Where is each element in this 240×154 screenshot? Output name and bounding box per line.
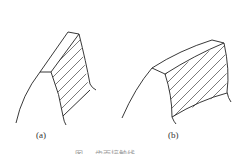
tooth-a bbox=[16, 10, 100, 140]
figure-caption: 图 … 齿面接触线 bbox=[75, 148, 135, 154]
figure-label-b: (b) bbox=[168, 130, 179, 140]
figure-label-a: (a) bbox=[36, 130, 46, 140]
